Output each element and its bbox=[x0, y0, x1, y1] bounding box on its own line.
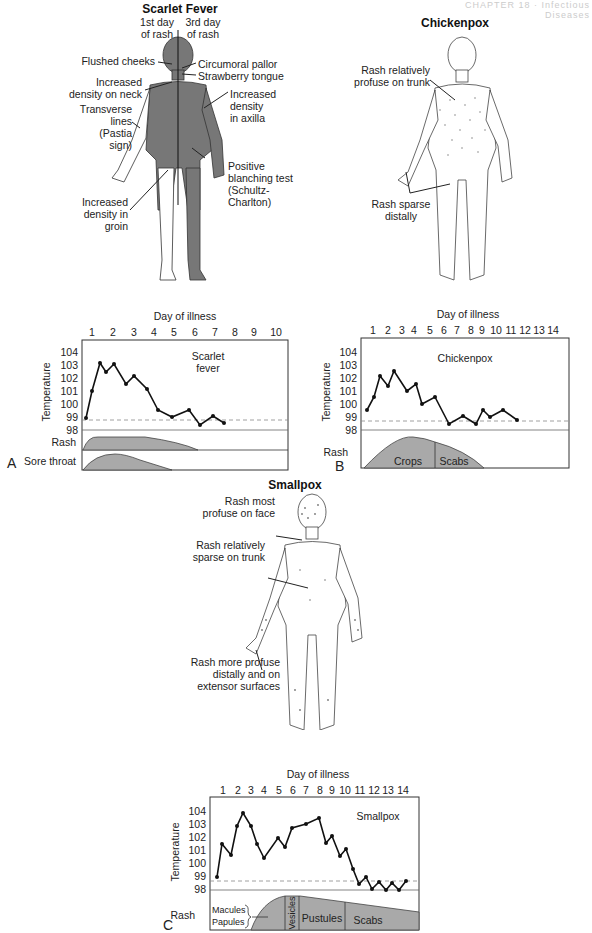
callout-chickenpox-trunk: Rash relativelyprofuse on trunk bbox=[340, 64, 430, 88]
svg-text:13: 13 bbox=[533, 324, 545, 336]
callout-chickenpox-distal: Rash sparsedistally bbox=[366, 198, 436, 222]
svg-text:98: 98 bbox=[345, 424, 357, 436]
svg-text:14: 14 bbox=[397, 784, 409, 796]
svg-text:Smallpox: Smallpox bbox=[356, 810, 400, 822]
svg-text:1: 1 bbox=[370, 324, 376, 336]
svg-text:Temperature: Temperature bbox=[320, 362, 332, 421]
svg-text:100: 100 bbox=[339, 398, 357, 410]
chart-chickenpox: Day of illness 1234567891011121314 10410… bbox=[300, 300, 592, 480]
svg-text:99: 99 bbox=[345, 411, 357, 423]
svg-text:98: 98 bbox=[66, 424, 78, 436]
svg-text:3: 3 bbox=[399, 324, 405, 336]
svg-text:Rash: Rash bbox=[170, 909, 195, 921]
scarlet-fever-figure bbox=[0, 0, 300, 300]
chart-scarlet-fever: Day of illness 12345678910 1041031021011… bbox=[0, 300, 300, 480]
figure-letter-c: C bbox=[163, 917, 173, 933]
svg-text:Day of illness: Day of illness bbox=[437, 308, 499, 320]
svg-text:7: 7 bbox=[303, 784, 309, 796]
callout-density-neck: Increaseddensity on neck bbox=[60, 76, 142, 100]
svg-text:10: 10 bbox=[339, 784, 351, 796]
svg-text:101: 101 bbox=[339, 385, 357, 397]
callout-smallpox-trunk: Rash relativelysparse on trunk bbox=[185, 539, 265, 563]
svg-text:Temperature: Temperature bbox=[40, 362, 52, 421]
svg-text:10: 10 bbox=[270, 326, 282, 338]
svg-text:11: 11 bbox=[355, 784, 366, 796]
svg-text:2: 2 bbox=[385, 324, 391, 336]
svg-text:98: 98 bbox=[194, 883, 206, 895]
svg-text:4: 4 bbox=[411, 324, 417, 336]
svg-text:Papules: Papules bbox=[212, 917, 245, 927]
svg-text:4: 4 bbox=[261, 784, 267, 796]
callout-density-groin: Increaseddensity ingroin bbox=[60, 196, 128, 232]
svg-text:fever: fever bbox=[196, 362, 220, 374]
svg-text:Chickenpox: Chickenpox bbox=[438, 352, 494, 364]
svg-text:6: 6 bbox=[290, 784, 296, 796]
svg-text:10: 10 bbox=[490, 324, 502, 336]
callout-strawberry-tongue: Strawberry tongue bbox=[198, 70, 298, 82]
svg-text:8: 8 bbox=[317, 784, 323, 796]
chickenpox-figure bbox=[300, 0, 592, 300]
svg-text:9: 9 bbox=[251, 326, 257, 338]
svg-text:12: 12 bbox=[368, 784, 380, 796]
svg-text:6: 6 bbox=[441, 324, 447, 336]
svg-text:7: 7 bbox=[454, 324, 460, 336]
svg-text:Scabs: Scabs bbox=[439, 455, 468, 467]
svg-text:102: 102 bbox=[339, 372, 357, 384]
svg-text:Crops: Crops bbox=[394, 455, 422, 467]
svg-text:9: 9 bbox=[329, 784, 335, 796]
svg-text:8: 8 bbox=[232, 326, 238, 338]
svg-text:Scabs: Scabs bbox=[353, 914, 382, 926]
chart-smallpox: Day of illness 1234567891011121314 10410… bbox=[150, 760, 450, 933]
svg-text:Day of illness: Day of illness bbox=[287, 768, 349, 780]
svg-text:11: 11 bbox=[506, 324, 517, 336]
svg-text:104: 104 bbox=[60, 346, 78, 358]
svg-text:5: 5 bbox=[427, 324, 433, 336]
svg-text:101: 101 bbox=[60, 385, 78, 397]
svg-text:Rash: Rash bbox=[323, 446, 348, 458]
svg-text:4: 4 bbox=[151, 326, 157, 338]
smallpox-figure bbox=[150, 490, 450, 730]
svg-text:9: 9 bbox=[479, 324, 485, 336]
svg-text:2: 2 bbox=[110, 326, 116, 338]
svg-text:Rash: Rash bbox=[51, 436, 76, 448]
svg-text:103: 103 bbox=[339, 359, 357, 371]
svg-text:1: 1 bbox=[89, 326, 95, 338]
callout-pastia-sign: Transverselines(Pastiasign) bbox=[60, 103, 132, 151]
svg-text:3: 3 bbox=[131, 326, 137, 338]
svg-text:100: 100 bbox=[60, 398, 78, 410]
callout-density-axilla: Increaseddensityin axilla bbox=[230, 88, 300, 124]
svg-text:99: 99 bbox=[194, 870, 206, 882]
callout-flushed-cheeks: Flushed cheeks bbox=[60, 55, 155, 67]
svg-text:Vesicles: Vesicles bbox=[287, 896, 297, 930]
svg-text:Macules: Macules bbox=[212, 905, 246, 915]
svg-text:104: 104 bbox=[339, 346, 357, 358]
svg-text:Temperature: Temperature bbox=[169, 822, 181, 881]
svg-text:103: 103 bbox=[188, 818, 206, 830]
svg-text:7: 7 bbox=[212, 326, 218, 338]
figure-letter-b: B bbox=[335, 458, 344, 474]
svg-text:102: 102 bbox=[60, 372, 78, 384]
svg-text:1: 1 bbox=[220, 784, 226, 796]
svg-text:Scarlet: Scarlet bbox=[192, 350, 225, 362]
svg-text:102: 102 bbox=[188, 831, 206, 843]
svg-text:8: 8 bbox=[468, 324, 474, 336]
svg-text:100: 100 bbox=[188, 857, 206, 869]
svg-text:99: 99 bbox=[66, 411, 78, 423]
callout-circumoral-pallor: Circumoral pallor bbox=[198, 58, 298, 70]
svg-text:Sore throat: Sore throat bbox=[24, 455, 76, 467]
svg-text:101: 101 bbox=[188, 844, 206, 856]
figure-letter-a: A bbox=[7, 455, 16, 471]
svg-text:6: 6 bbox=[192, 326, 198, 338]
svg-text:5: 5 bbox=[276, 784, 282, 796]
svg-text:104: 104 bbox=[188, 805, 206, 817]
x-axis-ticks: 12345678910 bbox=[89, 326, 282, 338]
callout-smallpox-face: Rash mostprofuse on face bbox=[190, 495, 275, 519]
svg-text:Pustules: Pustules bbox=[302, 912, 342, 924]
svg-text:3: 3 bbox=[248, 784, 254, 796]
svg-text:12: 12 bbox=[519, 324, 531, 336]
svg-text:2: 2 bbox=[235, 784, 241, 796]
svg-text:13: 13 bbox=[382, 784, 394, 796]
callout-blanching-test: Positiveblanching test(Schultz-Charlton) bbox=[228, 160, 300, 208]
x-axis-title: Day of illness bbox=[154, 310, 216, 322]
svg-text:103: 103 bbox=[60, 359, 78, 371]
